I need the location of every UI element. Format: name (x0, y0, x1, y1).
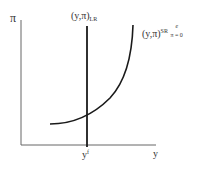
sr-label-main: (y,π) (142, 28, 161, 39)
sr-cond-sub: π = 0 (170, 32, 182, 38)
sr-curve-label: (y,π)SR e π = 0 (142, 27, 186, 39)
y-axis-label: π (10, 12, 16, 24)
sr-label-condition: e π = 0 (170, 27, 186, 37)
x-tick-label-yf: yf (82, 149, 89, 160)
yf-sup: f (87, 149, 89, 155)
sr-cond-sup: e (175, 23, 178, 29)
diagram-canvas (0, 0, 201, 171)
x-axis-label: y (153, 149, 158, 159)
lr-curve-label: (y,π)LR (71, 11, 97, 22)
lr-label-main: (y,π) (71, 10, 90, 21)
lr-label-sub: LR (90, 16, 98, 22)
short-run-curve (50, 25, 133, 124)
sr-label-sup: SR (161, 28, 168, 34)
